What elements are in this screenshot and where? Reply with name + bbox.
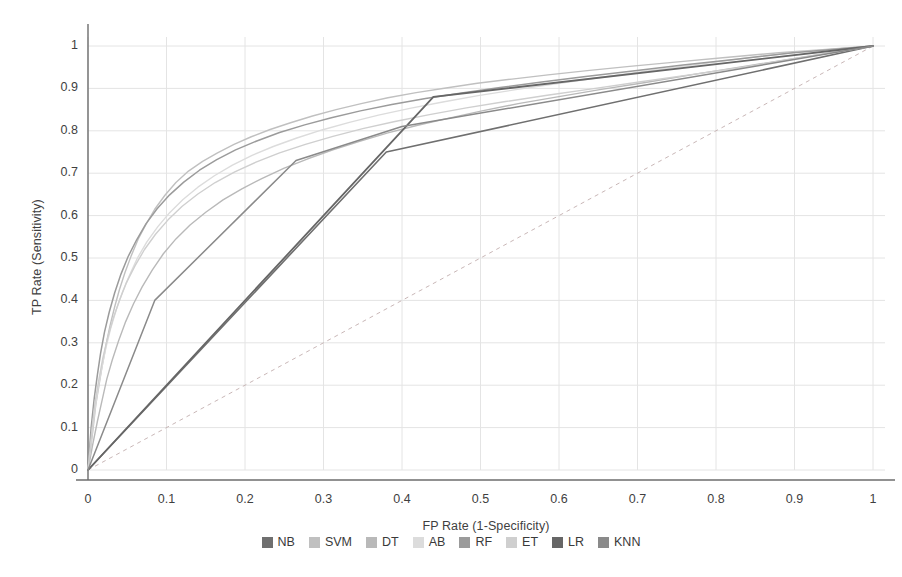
legend-label: DT [382, 536, 399, 549]
x-tick-label: 0.5 [461, 492, 501, 506]
y-tick-label: 0 [42, 462, 78, 476]
legend-item-ab[interactable]: AB [413, 536, 446, 549]
axis-frame [76, 24, 895, 480]
legend-item-nb[interactable]: NB [262, 536, 295, 549]
legend-swatch-icon [262, 537, 273, 548]
legend-label: AB [429, 536, 446, 549]
roc-plot-area [0, 0, 902, 577]
legend-label: RF [475, 536, 492, 549]
legend-label: KNN [614, 536, 640, 549]
legend-item-et[interactable]: ET [506, 536, 538, 549]
x-tick-label: 0.6 [539, 492, 579, 506]
legend-swatch-icon [309, 537, 320, 548]
legend-item-svm[interactable]: SVM [309, 536, 352, 549]
x-tick-label: 0.4 [382, 492, 422, 506]
legend-item-knn[interactable]: KNN [598, 536, 640, 549]
legend-item-lr[interactable]: LR [552, 536, 584, 549]
chart-legend: NBSVMDTABRFETLRKNN [0, 536, 902, 549]
legend-swatch-icon [552, 537, 563, 548]
x-tick-label: 0.3 [304, 492, 344, 506]
x-tick-label: 0.8 [696, 492, 736, 506]
legend-swatch-icon [366, 537, 377, 548]
y-tick-label: 0.7 [42, 165, 78, 179]
y-tick-label: 0.9 [42, 80, 78, 94]
y-tick-label: 0.3 [42, 335, 78, 349]
y-tick-label: 0.5 [42, 250, 78, 264]
y-tick-label: 0.2 [42, 377, 78, 391]
y-tick-label: 0.1 [42, 420, 78, 434]
x-tick-label: 0.2 [225, 492, 265, 506]
legend-label: ET [522, 536, 538, 549]
legend-swatch-icon [506, 537, 517, 548]
legend-label: NB [278, 536, 295, 549]
legend-label: SVM [325, 536, 352, 549]
x-axis-title: FP Rate (1-Specificity) [0, 519, 902, 533]
y-tick-label: 0.8 [42, 123, 78, 137]
x-tick-label: 1 [853, 492, 893, 506]
x-tick-label: 0 [68, 492, 108, 506]
legend-swatch-icon [413, 537, 424, 548]
legend-swatch-icon [459, 537, 470, 548]
legend-swatch-icon [598, 537, 609, 548]
x-tick-label: 0.1 [147, 492, 187, 506]
y-tick-label: 1 [42, 38, 78, 52]
legend-label: LR [568, 536, 584, 549]
y-tick-label: 0.4 [42, 292, 78, 306]
y-tick-label: 0.6 [42, 208, 78, 222]
roc-chart-figure: TP Rate (Sensitivity) FP Rate (1-Specifi… [0, 0, 902, 577]
legend-item-rf[interactable]: RF [459, 536, 492, 549]
x-tick-label: 0.9 [775, 492, 815, 506]
x-tick-label: 0.7 [618, 492, 658, 506]
legend-item-dt[interactable]: DT [366, 536, 399, 549]
